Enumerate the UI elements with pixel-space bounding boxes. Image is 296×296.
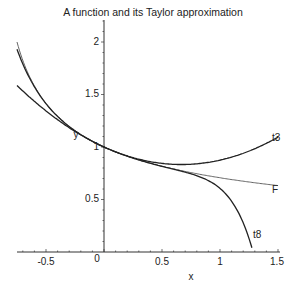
x-tick-label: 1.5 (270, 256, 284, 267)
label-t8: t8 (253, 229, 262, 240)
curve-t3 (17, 86, 278, 165)
curve-f (17, 42, 278, 186)
axis-ticks (23, 21, 278, 252)
x-tick-label: 1 (217, 256, 223, 267)
y-tick-label: 1.5 (85, 88, 99, 99)
y-tick-label: 2 (93, 36, 99, 47)
y-tick-label: 0.5 (85, 193, 99, 204)
label-t3: t3 (272, 132, 281, 143)
chart-title: A function and its Taylor approximation (63, 6, 243, 18)
label-f: F (272, 184, 278, 195)
x-tick-label: 0 (94, 253, 100, 264)
curve-t8 (17, 49, 252, 248)
x-axis-label: x (189, 271, 194, 282)
x-tick-label: 0.5 (155, 256, 169, 267)
x-tick-label: -0.5 (37, 256, 55, 267)
chart: A function and its Taylor approximation … (0, 0, 296, 296)
